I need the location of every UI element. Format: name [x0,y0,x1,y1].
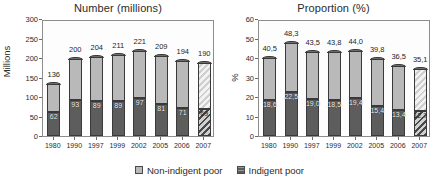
bar [392,65,405,136]
chart-panel-number: Number (millions) Millions 1366220093204… [0,0,218,158]
bar [263,57,276,136]
x-tick-label: 1980 [258,142,280,150]
bar [306,51,319,136]
y-tick-label: 0 [232,133,254,141]
bar-segment-value-label: 81 [151,105,173,113]
bar-top-cap [197,61,212,64]
bar [133,50,146,136]
bar [90,56,103,136]
bar-top-cap [327,50,342,53]
bar-segment-non-indigent-poor [198,62,211,109]
x-tick-label: 1980 [42,142,64,150]
x-tick-mark [182,137,183,140]
bar-segment-value-label: 13,4 [388,111,410,119]
bar [414,68,427,136]
bar-total-label: 221 [129,38,151,46]
legend-swatch-icon [135,166,143,174]
legend-item[interactable]: Indigent poor [237,165,304,176]
y-tick-label: 0 [16,133,38,141]
x-tick-label: 2006 [171,142,193,150]
y-tick-label: 60 [232,16,254,24]
bar-top-cap [111,53,126,56]
x-tick-label: 1999 [323,142,345,150]
x-tick-mark [74,137,75,140]
x-tick-label: 2007 [193,142,215,150]
bar-top-cap [68,57,83,60]
bar-total-label: 204 [86,44,108,52]
bar-top-cap [370,57,385,60]
bar-segment-non-indigent-poor [133,50,146,98]
bar-top-cap [262,56,277,59]
bar-total-label: 136 [43,71,65,79]
bar-segment-non-indigent-poor [414,68,427,112]
chart-title-number: Number (millions) [0,2,218,14]
bar-total-label: 35,1 [410,56,432,64]
bar-segment-value-label: 93 [65,101,87,109]
x-tick-label: 2002 [344,142,366,150]
x-tick-label: 1990 [280,142,302,150]
bar-segment-non-indigent-poor [176,60,189,108]
bar-segment-value-label: 12,7 [410,112,432,120]
y-tick-mark [39,97,42,98]
bar-total-label: 200 [65,46,87,54]
y-tick-label: 50 [16,114,38,122]
x-tick-label: 2002 [128,142,150,150]
bar-segment-non-indigent-poor [47,83,60,112]
plot-area-number: 1366220093204892118922197209811947119069 [42,20,214,137]
bar-top-cap [132,49,147,52]
x-tick-mark [203,137,204,140]
x-tick-mark [333,137,334,140]
bar-segment-non-indigent-poor [155,55,168,105]
y-tick-mark [255,58,258,59]
legend-item[interactable]: Non-indigent poor [135,165,223,176]
plot-area-proportion: 40,518,648,322,543,519,043,818,544,019,4… [258,20,430,137]
bar-segment-non-indigent-poor [328,51,341,100]
y-tick-label: 10 [232,114,254,122]
bar-total-label: 190 [194,50,216,58]
bar-segment-non-indigent-poor [90,56,103,101]
x-tick-mark [290,137,291,140]
bar-segment-value-label: 97 [129,99,151,107]
bar-total-label: 40,5 [259,45,281,53]
bar-segment-non-indigent-poor [349,50,362,98]
chart-legend: Non-indigent poorIndigent poor [0,158,439,182]
bar-top-cap [413,67,428,70]
bar-segment-non-indigent-poor [112,54,125,102]
legend-item-label: Non-indigent poor [147,165,223,176]
bar-segment-non-indigent-poor [371,58,384,106]
x-tick-label: 2005 [150,142,172,150]
bar-segment-value-label: 89 [108,102,130,110]
y-tick-label: 100 [16,94,38,102]
x-tick-mark [117,137,118,140]
bar-segment-value-label: 69 [194,110,216,118]
bar-segment-value-label: 22,5 [281,93,303,101]
chart-figure: Number (millions) Millions 1366220093204… [0,0,439,182]
bar-segment-value-label: 62 [43,113,65,121]
bar-top-cap [46,82,61,85]
x-tick-mark [419,137,420,140]
bar-total-label: 211 [108,42,130,50]
bar-segment-value-label: 71 [172,109,194,117]
bar-total-label: 39,8 [367,46,389,54]
y-tick-mark [39,117,42,118]
bar-total-label: 44,0 [345,38,367,46]
bar-segment-value-label: 19,4 [345,99,367,107]
bar-segment-non-indigent-poor [392,65,405,110]
y-axis-label-number: Millions [1,32,12,92]
x-tick-mark [53,137,54,140]
bar-group-number: 1366220093204892118922197209811947119069 [43,21,213,136]
y-tick-label: 40 [232,55,254,63]
y-tick-mark [255,97,258,98]
bar [328,51,341,136]
bar-top-cap [89,55,104,58]
bar [285,42,298,136]
bar-top-cap [175,59,190,62]
x-tick-label: 1999 [107,142,129,150]
y-tick-label: 20 [232,94,254,102]
bar-group-proportion: 40,518,648,322,543,519,043,818,544,019,4… [259,21,429,136]
y-tick-mark [255,19,258,20]
bar-total-label: 209 [151,43,173,51]
bar [47,83,60,136]
bar-total-label: 36,5 [388,53,410,61]
y-tick-mark [39,19,42,20]
